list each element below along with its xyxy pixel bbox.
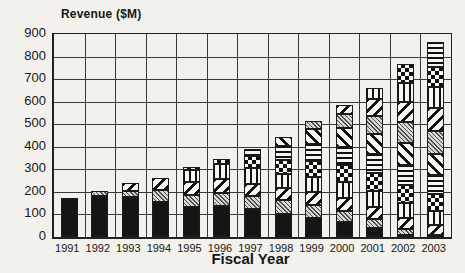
bar-segment-1992-series-2 — [91, 191, 108, 196]
bar-segment-1997-series-6 — [244, 149, 261, 156]
plot-area — [52, 33, 452, 239]
bar-segment-2000-series-7 — [336, 128, 353, 147]
bar-segment-1996-series-4 — [213, 164, 230, 180]
bar-segment-2002-series-5 — [397, 185, 414, 203]
bar-1994 — [152, 34, 169, 237]
y-tick-300: 300 — [12, 161, 46, 175]
v-gridline-1 — [85, 34, 86, 237]
bar-segment-2003-series-2 — [427, 235, 444, 237]
bar-segment-2002-series-8 — [397, 122, 414, 143]
bar-1998 — [275, 34, 292, 237]
bar-2002 — [397, 34, 414, 237]
chart-title: Revenue ($M) — [61, 7, 141, 21]
bar-1999 — [305, 34, 322, 237]
bar-segment-2001-series-10 — [366, 88, 383, 99]
bar-segment-2003-series-9 — [427, 108, 444, 131]
v-gridline-3 — [146, 34, 147, 237]
bar-segment-2003-series-6 — [427, 175, 444, 194]
bar-segment-1994-series-1 — [152, 202, 169, 237]
bar-segment-1991-series-1 — [61, 198, 78, 237]
bar-segment-1997-series-5 — [244, 156, 261, 168]
bar-segment-1998-series-3 — [275, 188, 292, 200]
bar-segment-2002-series-6 — [397, 165, 414, 185]
v-gridline-2 — [115, 34, 116, 237]
bar-segment-2003-series-5 — [427, 194, 444, 211]
bar-1997 — [244, 34, 261, 237]
bar-segment-1994-series-3 — [152, 178, 169, 190]
bar-segment-1999-series-4 — [305, 177, 322, 192]
bar-segment-2001-series-8 — [366, 116, 383, 134]
v-gridline-4 — [176, 34, 177, 237]
bar-segment-2001-series-7 — [366, 134, 383, 154]
bar-segment-1996-series-1 — [213, 206, 230, 237]
y-tick-0: 0 — [12, 229, 46, 243]
y-tick-100: 100 — [12, 206, 46, 220]
bar-segment-2002-series-10 — [397, 83, 414, 102]
bar-1992 — [91, 34, 108, 237]
bar-segment-2000-series-6 — [336, 147, 353, 165]
bar-segment-2002-series-11 — [397, 64, 414, 82]
bar-segment-2000-series-1 — [336, 222, 353, 237]
bar-segment-2001-series-1 — [366, 228, 383, 237]
bar-segment-2000-series-5 — [336, 165, 353, 182]
v-gridline-10 — [359, 34, 360, 237]
bar-2001 — [366, 34, 383, 237]
bar-segment-2000-series-8 — [336, 114, 353, 128]
bar-segment-1993-series-2 — [122, 191, 139, 197]
bar-segment-1992-series-1 — [91, 196, 108, 237]
bar-segment-1998-series-6 — [275, 146, 292, 160]
bar-segment-1993-series-3 — [122, 183, 139, 191]
bar-segment-1993-series-1 — [122, 197, 139, 237]
v-gridline-12 — [420, 34, 421, 237]
bar-segment-2002-series-1 — [397, 235, 414, 237]
bar-segment-1999-series-1 — [305, 218, 322, 237]
v-gridline-5 — [207, 34, 208, 237]
bar-segment-1999-series-3 — [305, 192, 322, 206]
bar-segment-2002-series-9 — [397, 102, 414, 122]
bar-segment-2001-series-5 — [366, 173, 383, 191]
bar-segment-2003-series-8 — [427, 131, 444, 154]
bar-segment-1999-series-8 — [305, 121, 322, 129]
bar-segment-2001-series-4 — [366, 191, 383, 207]
bar-segment-1996-series-2 — [213, 193, 230, 205]
bar-segment-2001-series-2 — [366, 219, 383, 228]
bar-segment-2000-series-3 — [336, 198, 353, 212]
bar-segment-1999-series-7 — [305, 129, 322, 145]
bar-1995 — [183, 34, 200, 237]
bar-1996 — [213, 34, 230, 237]
bar-segment-2002-series-2 — [397, 229, 414, 235]
v-gridline-7 — [268, 34, 269, 237]
bar-segment-2003-series-11 — [427, 67, 444, 87]
bar-segment-2003-series-10 — [427, 87, 444, 108]
bar-segment-2001-series-9 — [366, 99, 383, 115]
bar-segment-1998-series-7 — [275, 137, 292, 146]
bar-segment-1996-series-5 — [213, 159, 230, 164]
bar-segment-1997-series-3 — [244, 184, 261, 196]
bar-segment-1995-series-2 — [183, 195, 200, 206]
y-tick-600: 600 — [12, 94, 46, 108]
y-tick-400: 400 — [12, 139, 46, 153]
bar-2000 — [336, 34, 353, 237]
bar-segment-2001-series-3 — [366, 207, 383, 219]
y-tick-200: 200 — [12, 184, 46, 198]
bar-segment-1998-series-1 — [275, 214, 292, 237]
bar-2003 — [427, 34, 444, 237]
y-tick-800: 800 — [12, 49, 46, 63]
bar-segment-1999-series-2 — [305, 205, 322, 217]
bar-segment-2003-series-12 — [427, 42, 444, 67]
bar-segment-2002-series-4 — [397, 203, 414, 218]
bar-segment-1997-series-4 — [244, 168, 261, 183]
bar-1993 — [122, 34, 139, 237]
x-axis-title: Fiscal Year — [52, 250, 449, 267]
bar-segment-2002-series-3 — [397, 218, 414, 229]
bar-segment-2000-series-4 — [336, 182, 353, 198]
bar-segment-1997-series-1 — [244, 209, 261, 237]
v-gridline-11 — [390, 34, 391, 237]
bar-segment-1994-series-2 — [152, 190, 169, 202]
bar-segment-1995-series-5 — [183, 167, 200, 170]
y-tick-900: 900 — [12, 26, 46, 40]
bar-segment-1995-series-3 — [183, 182, 200, 195]
bar-segment-1998-series-5 — [275, 160, 292, 175]
bar-segment-2000-series-2 — [336, 211, 353, 222]
y-tick-500: 500 — [12, 116, 46, 130]
